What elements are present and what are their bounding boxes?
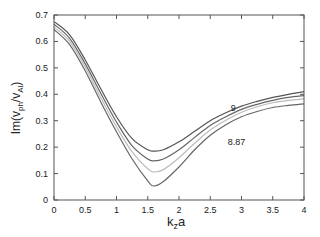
y-tick-label: 0.5 xyxy=(35,63,48,73)
y-tick-label: 0 xyxy=(43,195,48,205)
y-tick-label: 0.2 xyxy=(35,142,48,152)
curve-annotations: 98.87 xyxy=(228,103,246,146)
x-axis-label: kza xyxy=(167,214,186,231)
curve-label: 9 xyxy=(231,103,236,113)
plot-lines xyxy=(54,22,304,186)
x-tick-label: 1 xyxy=(114,205,119,215)
series-line-0 xyxy=(54,22,304,152)
y-tick-label: 0.4 xyxy=(35,89,48,99)
y-tick-label: 0.7 xyxy=(35,10,48,20)
x-tick-label: 1.5 xyxy=(141,205,154,215)
series-line-1 xyxy=(54,24,304,161)
y-axis-label: Im(vph/vAl) xyxy=(9,82,25,135)
x-tick-label: 4 xyxy=(301,205,306,215)
chart: 00.511.522.533.54 00.10.20.30.40.50.60.7… xyxy=(0,0,320,237)
x-tick-label: 2.5 xyxy=(204,205,217,215)
x-tick-label: 3 xyxy=(239,205,244,215)
series-line-3 xyxy=(54,30,304,186)
y-tick-label: 0.6 xyxy=(35,36,48,46)
x-tick-label: 0 xyxy=(51,205,56,215)
plot-frame xyxy=(54,15,304,200)
x-tick-label: 3.5 xyxy=(266,205,279,215)
curve-label: 8.87 xyxy=(228,137,246,147)
y-tick-label: 0.1 xyxy=(35,169,48,179)
x-axis-ticks: 00.511.522.533.54 xyxy=(51,15,306,215)
x-tick-label: 0.5 xyxy=(79,205,92,215)
y-tick-label: 0.3 xyxy=(35,116,48,126)
